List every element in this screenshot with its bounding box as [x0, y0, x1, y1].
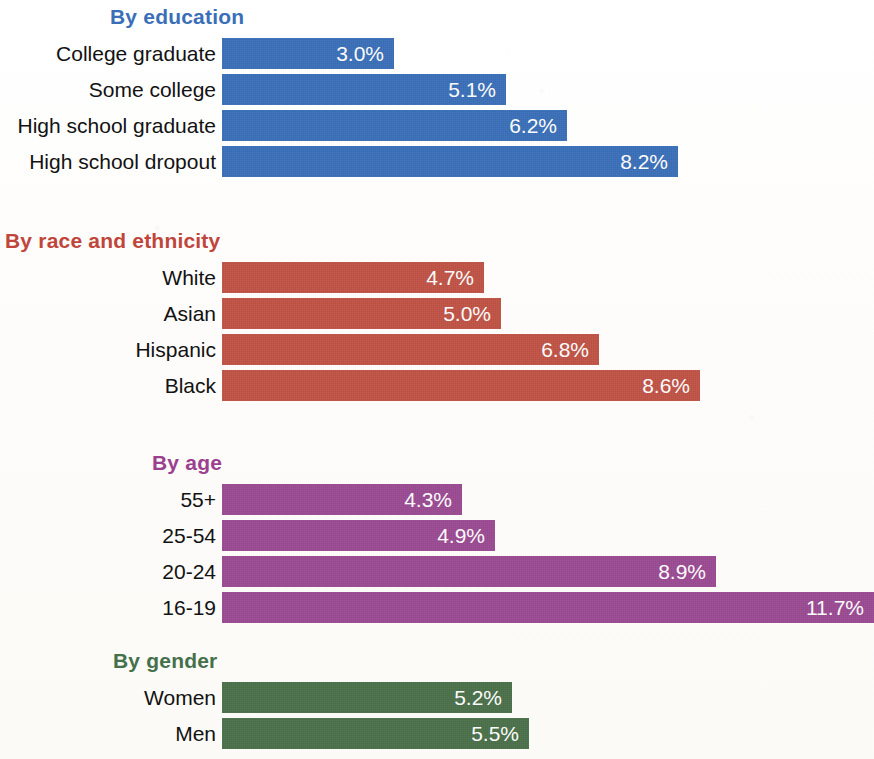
category-label: Black — [165, 370, 216, 401]
panel-heading: By age — [152, 450, 222, 476]
category-label: Men — [175, 718, 216, 749]
bar: 5.5% — [222, 718, 529, 749]
bar: 8.2% — [222, 146, 678, 177]
bar-value-label: 4.3% — [404, 484, 462, 515]
category-label: 25-54 — [162, 520, 216, 551]
bar-value-label: 6.8% — [541, 334, 599, 365]
category-label: Asian — [163, 298, 216, 329]
category-label: Women — [144, 682, 216, 713]
bar-value-label: 11.7% — [806, 592, 874, 623]
panel-heading: By race and ethnicity — [5, 228, 220, 254]
bar-value-label: 5.2% — [454, 682, 512, 713]
category-label: 20-24 — [162, 556, 216, 587]
bar: 6.2% — [222, 110, 567, 141]
category-label: High school dropout — [29, 146, 216, 177]
category-label: White — [162, 262, 216, 293]
bar-value-label: 5.1% — [448, 74, 506, 105]
bar-value-label: 4.9% — [437, 520, 495, 551]
chart-row: College graduate3.0% — [0, 38, 874, 69]
chart-row: 55+4.3% — [0, 484, 874, 515]
category-label: 16-19 — [162, 592, 216, 623]
bar: 5.1% — [222, 74, 506, 105]
chart-row: Hispanic6.8% — [0, 334, 874, 365]
chart-row: 20-248.9% — [0, 556, 874, 587]
chart-row: Asian5.0% — [0, 298, 874, 329]
bar-value-label: 6.2% — [509, 110, 567, 141]
bar: 11.7% — [222, 592, 874, 623]
bar: 5.0% — [222, 298, 501, 329]
chart-row: Some college5.1% — [0, 74, 874, 105]
chart-row: Women5.2% — [0, 682, 874, 713]
bar-value-label: 8.6% — [642, 370, 700, 401]
chart-row: High school dropout8.2% — [0, 146, 874, 177]
bar: 8.9% — [222, 556, 716, 587]
category-label: Hispanic — [135, 334, 216, 365]
category-label: Some college — [89, 74, 216, 105]
chart-row: 16-1911.7% — [0, 592, 874, 623]
bar: 4.7% — [222, 262, 484, 293]
bar-value-label: 8.2% — [620, 146, 678, 177]
panel-heading: By education — [110, 4, 244, 30]
category-label: College graduate — [56, 38, 216, 69]
chart-row: White4.7% — [0, 262, 874, 293]
chart-row: Black8.6% — [0, 370, 874, 401]
bar: 8.6% — [222, 370, 700, 401]
unemployment-rate-bar-chart: By educationCollege graduate3.0%Some col… — [0, 0, 874, 759]
chart-row: High school graduate6.2% — [0, 110, 874, 141]
bar-value-label: 4.7% — [426, 262, 484, 293]
bar-value-label: 3.0% — [336, 38, 394, 69]
bar: 4.9% — [222, 520, 495, 551]
bar: 3.0% — [222, 38, 394, 69]
panel-heading: By gender — [113, 648, 218, 674]
bar: 5.2% — [222, 682, 512, 713]
bar-value-label: 5.5% — [471, 718, 529, 749]
bar-value-label: 8.9% — [658, 556, 716, 587]
category-label: 55+ — [180, 484, 216, 515]
chart-row: 25-544.9% — [0, 520, 874, 551]
bar-value-label: 5.0% — [443, 298, 501, 329]
bar: 6.8% — [222, 334, 599, 365]
category-label: High school graduate — [18, 110, 216, 141]
chart-row: Men5.5% — [0, 718, 874, 749]
bar: 4.3% — [222, 484, 462, 515]
